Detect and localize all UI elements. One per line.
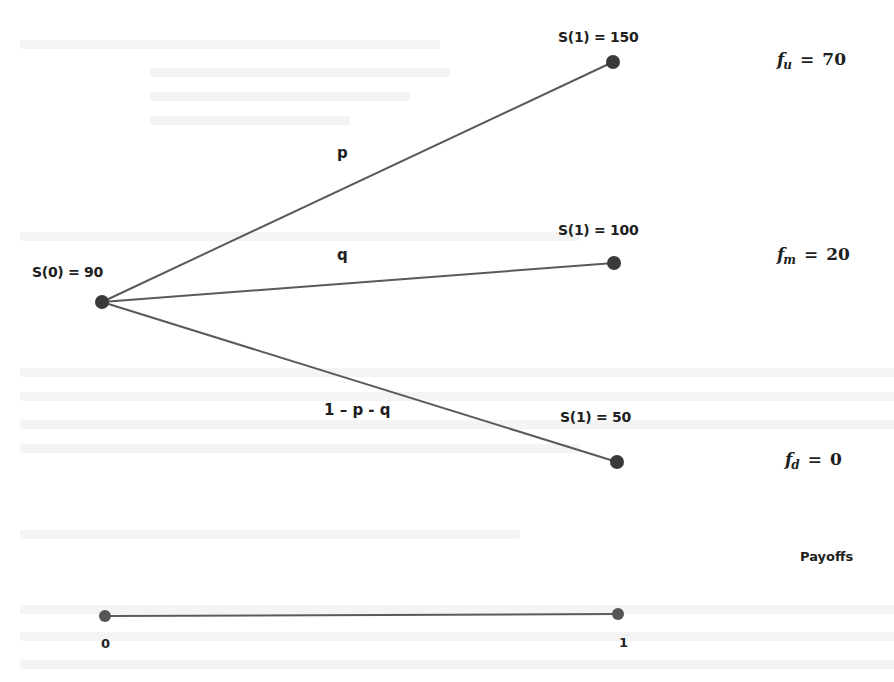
payoff-middle: fm=20 bbox=[777, 244, 850, 264]
payoff-up: fu=70 bbox=[777, 49, 846, 69]
root-node-label: S(0) = 90 bbox=[32, 264, 103, 280]
payoff-equals: = bbox=[800, 49, 814, 69]
middle-node bbox=[607, 256, 621, 270]
up-node-label: S(1) = 150 bbox=[558, 29, 638, 45]
branch-up-line bbox=[102, 62, 613, 302]
payoffs-caption: Payoffs bbox=[800, 549, 853, 564]
probability-down-label: 1 – p - q bbox=[324, 401, 391, 419]
timeline-start-label: 0 bbox=[101, 636, 110, 651]
timeline-start-node bbox=[99, 610, 111, 622]
payoff-down: fd=0 bbox=[785, 449, 842, 469]
payoff-subscript: m bbox=[783, 253, 796, 267]
timeline-end-label: 1 bbox=[619, 635, 628, 650]
branch-middle-line bbox=[102, 263, 614, 302]
payoff-subscript: d bbox=[791, 458, 799, 472]
up-node bbox=[606, 55, 620, 69]
trinomial-tree-diagram bbox=[0, 0, 894, 682]
payoff-value: 0 bbox=[830, 449, 842, 469]
payoff-value: 20 bbox=[826, 244, 850, 264]
payoff-value: 70 bbox=[822, 49, 846, 69]
timeline-line bbox=[105, 614, 618, 616]
root-node bbox=[95, 295, 109, 309]
probability-p-label: p bbox=[337, 144, 348, 162]
middle-node-label: S(1) = 100 bbox=[558, 222, 638, 238]
payoff-equals: = bbox=[804, 244, 818, 264]
branch-down-line bbox=[102, 302, 617, 462]
payoff-subscript: u bbox=[783, 58, 792, 72]
timeline-end-node bbox=[612, 608, 624, 620]
down-node-label: S(1) = 50 bbox=[560, 409, 631, 425]
probability-q-label: q bbox=[337, 246, 348, 264]
down-node bbox=[610, 455, 624, 469]
payoff-equals: = bbox=[808, 449, 822, 469]
